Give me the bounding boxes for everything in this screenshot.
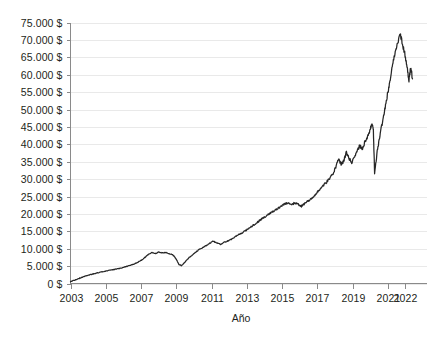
gridlines-group — [71, 24, 427, 285]
y-tick-labels-group: 0 $5.000 $10.000 $15.000 $20.000 $25.000… — [21, 17, 63, 290]
y-tick-label: 35.000 $ — [21, 156, 63, 168]
y-tick-label: 70.000 $ — [21, 34, 63, 46]
series-line-valor-acumulado — [71, 34, 413, 282]
y-tick-label: 5.000 $ — [27, 260, 63, 272]
x-tick-label: 2017 — [306, 292, 330, 304]
chart-figure: 0 $5.000 $10.000 $15.000 $20.000 $25.000… — [0, 0, 439, 340]
line-chart-svg: 0 $5.000 $10.000 $15.000 $20.000 $25.000… — [0, 0, 439, 340]
y-tick-label: 25.000 $ — [21, 191, 63, 203]
y-tick-label: 15.000 $ — [21, 225, 63, 237]
x-tick-label: 2013 — [236, 292, 260, 304]
x-tick-label: 2011 — [201, 292, 224, 304]
y-tick-label: 0 $ — [48, 278, 63, 290]
y-tick-label: 65.000 $ — [21, 51, 63, 63]
x-tick-label: 2007 — [130, 292, 154, 304]
y-tick-label: 55.000 $ — [21, 86, 63, 98]
y-tick-label: 50.000 $ — [21, 104, 63, 116]
x-tick-labels-group: 2003200520072009201120132015201720192021… — [60, 292, 418, 304]
x-tick-label: 2022 — [394, 292, 418, 304]
x-tick-label: 2019 — [342, 292, 366, 304]
x-tick-label: 2015 — [271, 292, 295, 304]
y-tick-label: 10.000 $ — [21, 243, 63, 255]
x-tick-label: 2003 — [60, 292, 84, 304]
y-tick-label: 30.000 $ — [21, 173, 63, 185]
x-axis-title: Año — [232, 312, 251, 324]
axes-group — [71, 23, 427, 284]
y-tick-label: 60.000 $ — [21, 69, 63, 81]
x-tick-label: 2009 — [165, 292, 189, 304]
y-tick-label: 40.000 $ — [21, 138, 63, 150]
y-tick-label: 75.000 $ — [21, 17, 63, 29]
data-series-group — [71, 34, 413, 282]
x-tick-label: 2005 — [95, 292, 119, 304]
y-tick-label: 20.000 $ — [21, 208, 63, 220]
y-tick-label: 45.000 $ — [21, 121, 63, 133]
y-tick-marks-group — [67, 24, 71, 285]
